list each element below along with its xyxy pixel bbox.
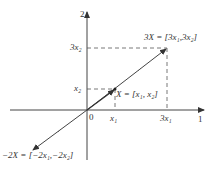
y-axis-label: 2 bbox=[80, 10, 85, 19]
label-3x: 3X = [3x₁,3x₂] bbox=[144, 33, 197, 42]
vector-diagram bbox=[0, 0, 212, 171]
tick-x1: x₁ bbox=[110, 114, 117, 123]
tick-3x1: 3x₁ bbox=[160, 114, 172, 123]
tick-3x2: 3x₂ bbox=[70, 43, 82, 52]
origin-label: 0 bbox=[89, 113, 94, 122]
label-minus-2x: −2X = [−2x₁,−2x₂] bbox=[2, 151, 73, 160]
x-axis-label: 1 bbox=[198, 115, 203, 124]
vector-x bbox=[87, 90, 114, 110]
tick-x2: x₂ bbox=[74, 84, 81, 93]
label-x: X = [x₁, x₂] bbox=[116, 90, 158, 99]
